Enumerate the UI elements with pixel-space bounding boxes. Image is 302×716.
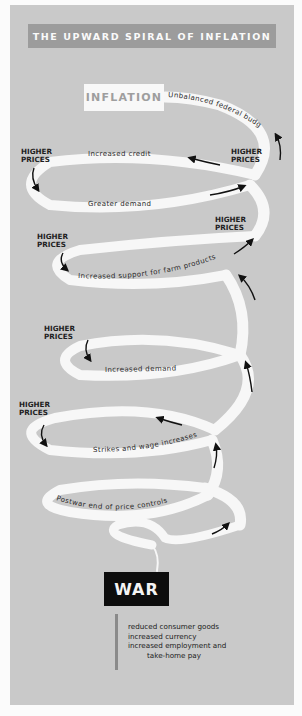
war-cause: reduced consumer goods bbox=[128, 622, 226, 632]
higher-prices-label: HIGHERPRICES bbox=[231, 148, 262, 164]
war-cause: take-home pay bbox=[128, 651, 226, 661]
higher-prices-label: HIGHERPRICES bbox=[19, 401, 50, 417]
higher-prices-label: HIGHERPRICES bbox=[37, 233, 68, 249]
war-box: WAR bbox=[104, 572, 169, 606]
war-cause: increased employment and bbox=[128, 641, 226, 651]
war-cause: increased currency bbox=[128, 632, 226, 642]
label-greater-demand: Greater demand bbox=[88, 200, 151, 208]
spiral-labels: Unbalanced federal budget Increased cred… bbox=[0, 0, 263, 511]
label-increased-credit: Increased credit bbox=[88, 150, 151, 158]
inflation-box: INFLATION bbox=[84, 84, 164, 111]
war-causes-list: reduced consumer goods increased currenc… bbox=[128, 622, 226, 660]
higher-prices-label: HIGHERPRICES bbox=[215, 216, 246, 232]
war-causes-rule bbox=[115, 614, 118, 670]
higher-prices-label: HIGHERPRICES bbox=[21, 148, 52, 164]
label-increased-demand: Increased demand bbox=[105, 364, 177, 374]
higher-prices-label: HIGHERPRICES bbox=[44, 325, 75, 341]
